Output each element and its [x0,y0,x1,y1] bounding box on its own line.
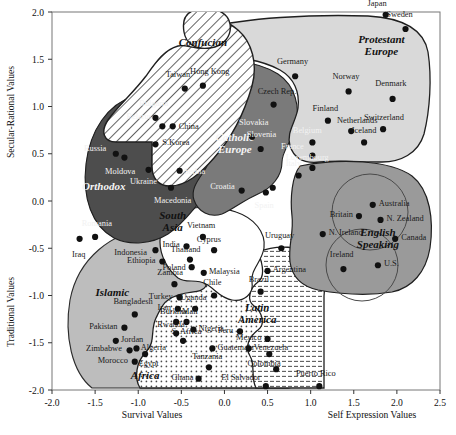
data-point [309,165,315,171]
country-label: Zimbabwe [86,344,122,353]
x-tick-label: 1.5 [348,397,360,408]
data-point [295,172,301,178]
data-point [245,345,251,351]
country-label: Japan [368,0,388,8]
data-point [380,126,386,132]
country-label: Bulgaria [139,99,168,108]
country-label: U.S. [384,259,399,268]
data-point [200,83,206,89]
country-label: Russia [84,144,107,153]
country-label: Thailand [171,245,202,254]
data-point [113,151,119,157]
data-point [121,154,127,160]
country-label: Australia [379,199,410,208]
country-label: Finland [313,104,339,113]
data-point [127,347,133,353]
data-point [171,281,177,287]
data-point [402,26,408,32]
data-point [195,376,201,382]
country-label: Romania [82,219,113,228]
country-label: S. Africa [172,327,202,336]
y-tick-label: -1.5 [29,337,44,348]
country-label: Hong Kong [190,67,230,76]
data-point [113,338,119,344]
data-point [270,102,276,108]
country-label: Zambia [157,268,183,277]
data-point [264,268,270,274]
country-label: Belarus [126,112,152,121]
data-point [206,364,212,370]
country-label: Belgium [293,126,322,135]
country-label: Moldova [105,167,136,176]
country-label: Malaysia [209,267,240,276]
data-point [211,292,217,298]
country-label: S.Korea [162,138,189,147]
cultural-map-svg: -2.0-1.5-1.0-0.50.00.51.01.52.02.52.01.5… [0,0,456,435]
data-point [325,118,331,124]
country-label: Chile [203,278,221,287]
x-tick-label: 0.5 [262,397,274,408]
country-label: N. Ireland [329,228,364,237]
country-label: Macedonia [154,196,191,205]
data-point [168,185,174,191]
y-tick-label: 0.5 [32,148,44,159]
data-point [263,383,269,389]
y-tick-label: 1.0 [32,101,44,112]
country-label: Peru [218,326,234,335]
x-tick-label: 0.0 [218,397,230,408]
country-label: Algeria [141,343,166,352]
country-label: Puerto Rico [296,369,336,378]
country-label: Germany [277,57,309,66]
group-label-islamic: Islamic [95,286,130,298]
country-label: Cyprus [197,235,221,244]
country-label: Pakistan [89,322,118,331]
data-point [187,256,193,262]
data-point [180,338,186,344]
country-label: Tanzania [192,352,222,361]
data-point [346,88,352,94]
country-label: Argentina [273,265,307,274]
data-point [152,141,158,147]
country-label: Ukraine [130,177,157,186]
y-tick-label: -2.0 [29,385,44,396]
group-label-orthodox: Orthodox [82,180,126,192]
x-tick-label: 1.0 [305,397,317,408]
data-point [201,270,207,276]
data-point [263,189,269,195]
country-label: Uganda [180,293,206,302]
country-label: Croatia [210,182,235,191]
data-point [316,383,322,389]
country-label: Uruguay [265,231,295,240]
country-label: Czech Rep. [258,87,297,96]
y-axis-bottom-label: Traditional Values [5,277,16,347]
country-label: Ghana [172,373,194,382]
country-label: Ethiopia [127,256,156,265]
data-point [258,289,264,295]
data-point [309,139,315,145]
data-point [320,231,326,237]
data-point [132,359,138,365]
data-point [273,366,279,372]
data-point [152,115,158,121]
data-point [182,85,188,91]
data-point [142,351,148,357]
data-point [152,247,158,253]
data-point [389,96,395,102]
group-label-south-asia: SouthAsia [159,209,186,233]
data-point [177,168,183,174]
country-label: Italy [286,159,302,168]
data-point [356,213,362,219]
y-axis-top-label: Secular-Rational Values [5,66,16,158]
country-label: Venezuela [254,343,289,352]
country-label: El Salvador [221,373,261,382]
country-label: Mexico [236,333,262,342]
data-point [361,139,367,145]
data-point [239,188,245,194]
group-label-confucian: Confucian [179,36,227,48]
country-label: Vietnam [187,221,216,230]
data-point [370,202,376,208]
country-label: Mali [182,307,198,316]
country-label: Switzerland [364,113,405,122]
x-tick-label: -0.5 [174,397,189,408]
data-point [264,336,270,342]
